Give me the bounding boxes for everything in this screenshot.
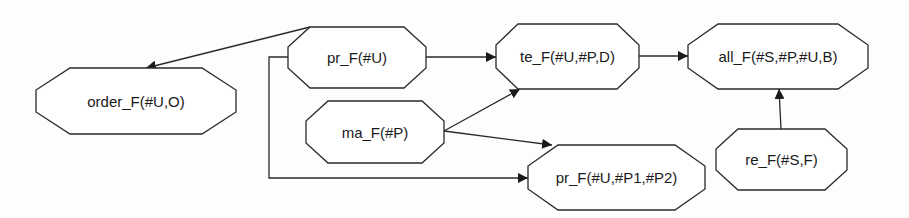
node-re <box>716 129 847 190</box>
edge-ma-to-te <box>444 89 520 131</box>
edge-ma-to-pr_upp <box>444 131 552 145</box>
edge-pr_u-to-order <box>146 27 310 68</box>
edge-re-to-all <box>779 89 781 129</box>
node-pr_upp <box>528 145 705 210</box>
node-ma <box>306 101 444 163</box>
node-te <box>496 24 639 89</box>
node-all <box>688 24 868 89</box>
diagram-canvas: order_F(#U,O)pr_F(#U)ma_F(#P)te_F(#U,#P,… <box>0 0 909 218</box>
node-order <box>36 68 236 134</box>
edges-layer <box>0 0 909 218</box>
node-pr_u <box>288 27 426 88</box>
